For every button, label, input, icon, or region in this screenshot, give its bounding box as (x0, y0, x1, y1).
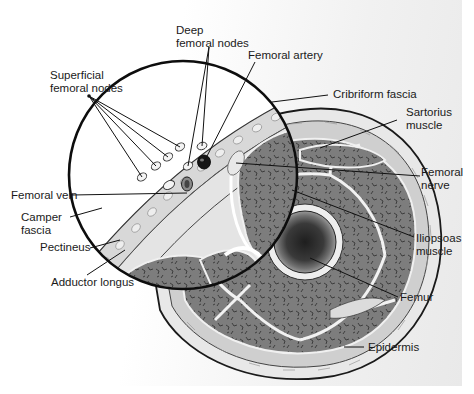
label-iliopsoas-muscle: Iliopsoas muscle (416, 232, 461, 258)
label-femoral-artery: Femoral artery (248, 49, 323, 62)
label-sartorius-line1: Sartorius (406, 106, 452, 119)
label-camper-fascia: Camper fascia (21, 211, 62, 237)
label-femoral-nerve-line2: nerve (421, 179, 463, 192)
label-deep-femoral-nodes: Deep femoral nodes (176, 24, 249, 50)
label-adductor-longus: Adductor longus (51, 276, 134, 289)
label-femur: Femur (400, 291, 433, 304)
label-sartorius-muscle: Sartorius muscle (406, 106, 452, 132)
label-femoral-nerve-line1: Femoral (421, 166, 463, 179)
label-femoral-vein: Femoral vein (11, 189, 77, 202)
label-deep-line1: Deep (176, 24, 249, 37)
label-iliopsoas-line1: Iliopsoas (416, 232, 461, 245)
label-deep-line2: femoral nodes (176, 37, 249, 50)
label-superficial-femoral-nodes: Superficial femoral nodes (50, 69, 123, 95)
label-femoral-nerve: Femoral nerve (421, 166, 463, 192)
label-iliopsoas-line2: muscle (416, 245, 461, 258)
label-camper-line2: fascia (21, 224, 62, 237)
label-pectineus: Pectineus (40, 241, 91, 254)
label-cribriform-fascia: Cribriform fascia (333, 88, 417, 101)
label-epidermis: Epidermis (368, 341, 419, 354)
label-superficial-line2: femoral nodes (50, 82, 123, 95)
label-superficial-line1: Superficial (50, 69, 123, 82)
label-sartorius-line2: muscle (406, 119, 452, 132)
label-camper-line1: Camper (21, 211, 62, 224)
